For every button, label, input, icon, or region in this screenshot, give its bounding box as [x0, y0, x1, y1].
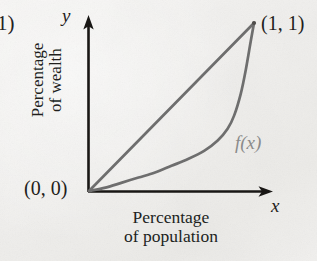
x-axis-symbol: x — [271, 196, 279, 216]
x-axis-title-line-1: Percentage — [86, 208, 256, 227]
top-right-point-marker — [252, 21, 256, 25]
lorenz-curve-figure: 1) (1, 1) (0, 0) x y f(x) Percentage of … — [0, 0, 317, 261]
point-label-origin: (0, 0) — [24, 178, 67, 199]
x-axis-title: Percentage of population — [86, 208, 256, 245]
data-curves-group — [89, 21, 256, 191]
y-axis-title: Percentage of wealth — [29, 15, 65, 145]
y-axis-title-line-2: of wealth — [47, 15, 65, 145]
point-label-one-one: (1, 1) — [261, 13, 304, 34]
cut-off-fragment-label: 1) — [0, 12, 15, 34]
y-axis-title-line-1: Percentage — [29, 15, 47, 145]
x-axis-title-line-2: of population — [86, 227, 256, 246]
curve-label-fx: f(x) — [235, 133, 261, 153]
